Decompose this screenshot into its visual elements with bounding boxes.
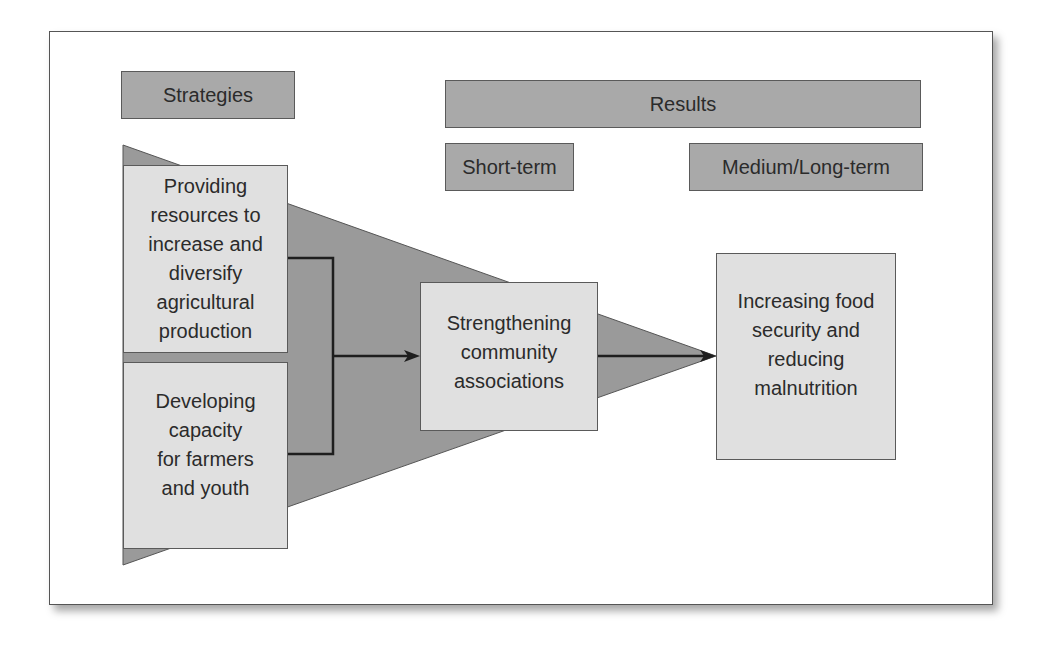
short-term-result-box: Strengthening community associations xyxy=(420,282,598,431)
strategy-box-resources: Providing resources to increase and dive… xyxy=(123,165,288,353)
short-term-header: Short-term xyxy=(445,143,574,191)
strategy-box-capacity: Developing capacity for farmers and yout… xyxy=(123,362,288,549)
long-term-result-label: Increasing food security and reducing ma… xyxy=(738,287,875,403)
short-term-header-label: Short-term xyxy=(462,155,556,180)
results-header: Results xyxy=(445,80,921,128)
results-header-label: Results xyxy=(650,92,717,117)
strategy-box-resources-label: Providing resources to increase and dive… xyxy=(148,172,263,346)
medium-long-term-header-label: Medium/Long-term xyxy=(722,155,890,180)
short-term-result-label: Strengthening community associations xyxy=(447,309,572,396)
long-term-result-box: Increasing food security and reducing ma… xyxy=(716,253,896,460)
medium-long-term-header: Medium/Long-term xyxy=(689,143,923,191)
strategies-header-label: Strategies xyxy=(163,83,253,108)
strategy-box-capacity-label: Developing capacity for farmers and yout… xyxy=(155,387,255,503)
strategies-header: Strategies xyxy=(121,71,295,119)
